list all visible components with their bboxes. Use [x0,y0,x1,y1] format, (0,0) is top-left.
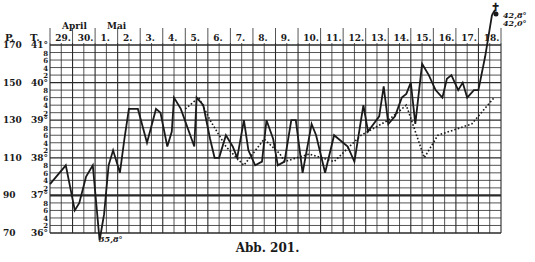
pulse-tick: 70 [3,228,16,238]
pulse-tick: 110 [3,153,22,163]
pulse-tick: 90 [3,190,16,200]
day-label: 9. [281,33,290,43]
day-label: 18. [484,33,500,43]
pulse-tick: 170 [3,40,22,50]
day-label: 30. [78,33,94,43]
day-label: 16. [439,33,455,43]
day-label: 29. [55,33,71,43]
month-label: Mai [107,21,126,31]
day-label: 4. [168,33,177,43]
day-label: 13. [371,33,387,43]
temperature-chart: P. T. AprilMai 29.30.1.2.3.4.5.6.7.8.9.1… [0,0,535,262]
day-label: 11. [326,33,342,43]
day-label: 15. [416,33,432,43]
day-label: 5. [191,33,200,43]
month-label: April [62,21,87,31]
day-label: 6. [213,33,222,43]
day-label: 7. [236,33,245,43]
day-label: 17. [461,33,477,43]
temperature-tick-major: 36° [31,228,48,238]
death-cross-icon: ✝ [491,3,500,13]
figure-caption: Abb. 201. [0,241,535,255]
day-label: 8. [258,33,267,43]
day-label: 2. [123,33,132,43]
pulse-tick: 130 [3,115,22,125]
pulse-curve [185,98,494,166]
day-label: 3. [145,33,154,43]
day-label: 1. [100,33,109,43]
day-label: 14. [394,33,410,43]
pulse-tick: 150 [3,78,22,88]
high-temp-annotation-2: 42,0° [503,19,526,27]
day-label: 10. [303,33,319,43]
day-label: 12. [348,33,364,43]
